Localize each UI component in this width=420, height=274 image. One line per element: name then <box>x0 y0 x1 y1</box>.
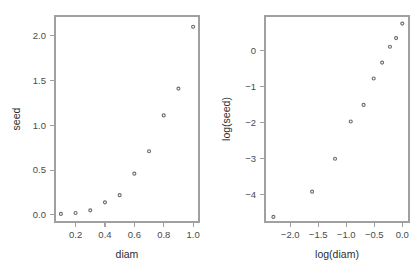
data-point <box>89 209 92 212</box>
data-point <box>59 212 62 215</box>
data-point <box>118 194 121 197</box>
y-axis-title: log(seed) <box>220 97 232 141</box>
x-tick-label: 0.4 <box>98 229 111 240</box>
data-point <box>362 103 365 106</box>
y-tick-label: 0.5 <box>33 164 46 175</box>
data-point <box>349 120 352 123</box>
data-point <box>395 37 398 40</box>
left-plot-canvas: 0.20.40.60.81.00.00.51.01.52.0diamseed <box>0 0 210 274</box>
y-tick-label: −2 <box>245 117 256 128</box>
data-point <box>192 25 195 28</box>
data-point <box>103 201 106 204</box>
y-tick-label: 1.5 <box>33 75 46 86</box>
y-tick-label: −4 <box>245 189 256 200</box>
x-tick-label: −0.5 <box>365 229 384 240</box>
x-tick-label: 0.8 <box>157 229 170 240</box>
y-tick-label: −1 <box>245 81 256 92</box>
data-point <box>381 61 384 64</box>
x-tick-label: 0.6 <box>128 229 141 240</box>
y-tick-label: 0 <box>251 45 256 56</box>
x-tick-label: −2.0 <box>281 229 300 240</box>
y-axis-title: seed <box>10 107 22 130</box>
data-point <box>401 22 404 25</box>
y-tick-label: 1.0 <box>33 120 46 131</box>
x-tick-label: 0.0 <box>396 229 409 240</box>
data-point <box>334 157 337 160</box>
x-tick-label: 0.2 <box>69 229 82 240</box>
data-point <box>311 190 314 193</box>
plot-frame <box>55 16 199 222</box>
x-tick-label: −1.5 <box>309 229 328 240</box>
figure-container: 0.20.40.60.81.00.00.51.01.52.0diamseed −… <box>0 0 420 274</box>
data-point <box>148 150 151 153</box>
data-point <box>74 212 77 215</box>
data-point <box>162 114 165 117</box>
data-point <box>372 77 375 80</box>
x-axis-title: log(diam) <box>315 248 359 260</box>
y-tick-label: 0.0 <box>33 209 46 220</box>
scatter-panel-seed-vs-diam: 0.20.40.60.81.00.00.51.01.52.0diamseed <box>0 0 210 274</box>
data-point <box>388 45 391 48</box>
y-tick-label: −3 <box>245 153 256 164</box>
scatter-panel-logseed-vs-logdiam: −2.0−1.5−1.0−0.50.0−4−3−2−10log(diam)log… <box>210 0 420 274</box>
plot-frame <box>265 16 409 222</box>
x-tick-label: −1.0 <box>337 229 356 240</box>
x-axis-title: diam <box>116 248 139 260</box>
right-plot-canvas: −2.0−1.5−1.0−0.50.0−4−3−2−10log(diam)log… <box>210 0 420 274</box>
data-point <box>177 87 180 90</box>
y-tick-label: 2.0 <box>33 30 46 41</box>
data-point <box>272 215 275 218</box>
x-tick-label: 1.0 <box>187 229 200 240</box>
data-point <box>133 172 136 175</box>
